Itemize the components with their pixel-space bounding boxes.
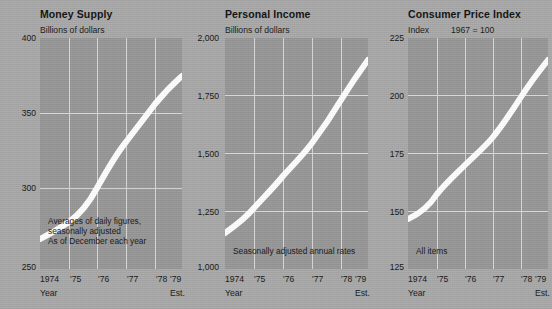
y-tick-label: 250 <box>4 263 36 272</box>
panel-note: All items <box>416 246 447 256</box>
plot-area-personal-income <box>225 38 368 269</box>
estimate-caption: Est. <box>170 289 185 298</box>
y-tick-label: 175 <box>376 150 404 159</box>
panel-consumer-price-index: Consumer Price Index Index 1967 = 100 22… <box>368 0 552 309</box>
x-tick-label: '77 <box>493 275 504 284</box>
panel-subtitle: Index <box>408 25 429 35</box>
x-tick-label: '75 <box>437 275 448 284</box>
x-tick-label: '78 <box>156 275 167 284</box>
x-tick-label: '78 <box>521 275 532 284</box>
panel-money-supply: Money Supply Billions of dollars 400 350… <box>0 0 186 309</box>
x-tick-label: '75 <box>70 275 81 284</box>
x-tick-label: '76 <box>465 275 476 284</box>
panel-subtitle-base: 1967 = 100 <box>451 25 494 35</box>
x-tick-label: '77 <box>312 275 323 284</box>
y-tick-label: 125 <box>376 263 404 272</box>
line-chart-personal-income <box>225 38 368 269</box>
estimate-caption: Est. <box>535 289 550 298</box>
x-axis-caption: Year <box>408 289 425 298</box>
y-tick-label: 300 <box>4 184 36 193</box>
y-tick-label: 400 <box>4 34 36 43</box>
x-tick-label: 1974 <box>225 275 244 284</box>
panel-title: Money Supply <box>40 8 112 20</box>
x-axis-caption: Year <box>225 289 242 298</box>
y-tick-label: 1,000 <box>186 263 219 272</box>
x-tick-label: '75 <box>254 275 265 284</box>
x-tick-label: '78 <box>341 275 352 284</box>
panel-subtitle: Billions of dollars <box>40 25 104 35</box>
plot-area-consumer-price-index <box>408 38 548 269</box>
x-tick-label: '79 <box>170 275 181 284</box>
x-tick-label: '76 <box>98 275 109 284</box>
x-tick-label: 1974 <box>40 275 59 284</box>
line-chart-consumer-price-index <box>408 38 548 269</box>
y-tick-label: 2,000 <box>186 34 219 43</box>
y-tick-label: 225 <box>376 34 404 43</box>
panel-note: Seasonally adjusted annual rates <box>233 246 355 256</box>
data-line <box>40 76 182 239</box>
x-tick-label: 1974 <box>408 275 427 284</box>
gridlines <box>225 38 368 269</box>
panel-title: Consumer Price Index <box>408 8 521 20</box>
x-tick-label: '77 <box>127 275 138 284</box>
panel-note: Averages of daily figures, seasonally ad… <box>48 216 146 247</box>
data-line <box>225 60 368 233</box>
y-tick-label: 150 <box>376 208 404 217</box>
x-tick-label: '79 <box>355 275 366 284</box>
panel-title: Personal Income <box>225 8 311 20</box>
y-tick-label: 1,500 <box>186 150 219 159</box>
y-tick-label: 1,750 <box>186 92 219 101</box>
panel-personal-income: Personal Income Billions of dollars 2,00… <box>186 0 368 309</box>
y-tick-label: 200 <box>376 92 404 101</box>
x-tick-label: '76 <box>283 275 294 284</box>
x-tick-label: '79 <box>535 275 546 284</box>
charts-board: Money Supply Billions of dollars 400 350… <box>0 0 552 309</box>
y-tick-label: 1,250 <box>186 208 219 217</box>
x-axis-caption: Year <box>40 289 57 298</box>
y-tick-label: 350 <box>4 109 36 118</box>
panel-subtitle: Billions of dollars <box>225 25 289 35</box>
data-line <box>408 60 548 219</box>
